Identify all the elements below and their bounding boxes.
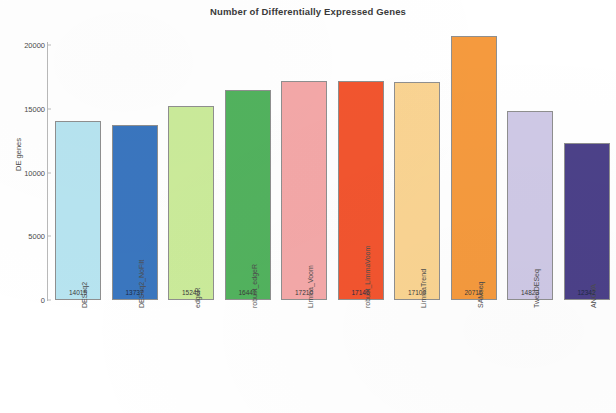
y-tick-label: 5000: [0, 232, 45, 241]
bar[interactable]: 17146: [338, 81, 384, 300]
x-tick-label: LimmaTrend: [420, 269, 427, 308]
x-tick-label: Limma_Voom: [307, 265, 314, 308]
bar[interactable]: 20716: [451, 36, 497, 300]
bar[interactable]: 13737: [112, 125, 158, 300]
bar-value-label: 16441: [226, 289, 270, 296]
bar[interactable]: 14823: [507, 111, 553, 300]
bar[interactable]: 17210: [281, 81, 327, 300]
bar[interactable]: 15249: [168, 106, 214, 300]
bar-value-label: 20716: [452, 289, 496, 296]
bar-value-label: 17109: [395, 289, 439, 296]
y-tick-label: 10000: [0, 168, 45, 177]
x-tick-label: ANOVA: [590, 284, 597, 308]
x-tick-label: DESeq2: [81, 282, 88, 308]
y-axis-label: DE genes: [14, 115, 23, 195]
bar-value-label: 15249: [169, 289, 213, 296]
bar-value-label: 13737: [113, 289, 157, 296]
bar[interactable]: 16441: [225, 90, 271, 300]
bar-value-label: 12342: [565, 289, 609, 296]
x-tick-label: robust_LimmaVoom: [364, 246, 371, 308]
y-tick-label: 0: [0, 296, 45, 305]
x-tick-label: DESeq2_NoFilt: [138, 260, 145, 308]
bar[interactable]: 14015: [55, 121, 101, 300]
bar-value-label: 17210: [282, 289, 326, 296]
bar-value-label: 14823: [508, 289, 552, 296]
x-tick-label: robust_edgeR: [251, 264, 258, 308]
plot-area: 1401513737152491644117210171461710920716…: [47, 45, 616, 300]
y-tick-label: 15000: [0, 104, 45, 113]
y-tick-label: 20000: [0, 41, 45, 50]
x-tick-label: TweeDESeq: [533, 269, 540, 308]
bar-value-label: 14015: [56, 289, 100, 296]
bar-value-label: 17146: [339, 289, 383, 296]
x-tick-label: edgeR: [194, 287, 201, 308]
chart-title: Number of Differentially Expressed Genes: [0, 6, 616, 17]
bar[interactable]: 12342: [564, 143, 610, 300]
bar-chart: Number of Differentially Expressed Genes…: [0, 0, 616, 413]
x-tick-label: SAMseq: [477, 282, 484, 308]
bar[interactable]: 17109: [394, 82, 440, 300]
